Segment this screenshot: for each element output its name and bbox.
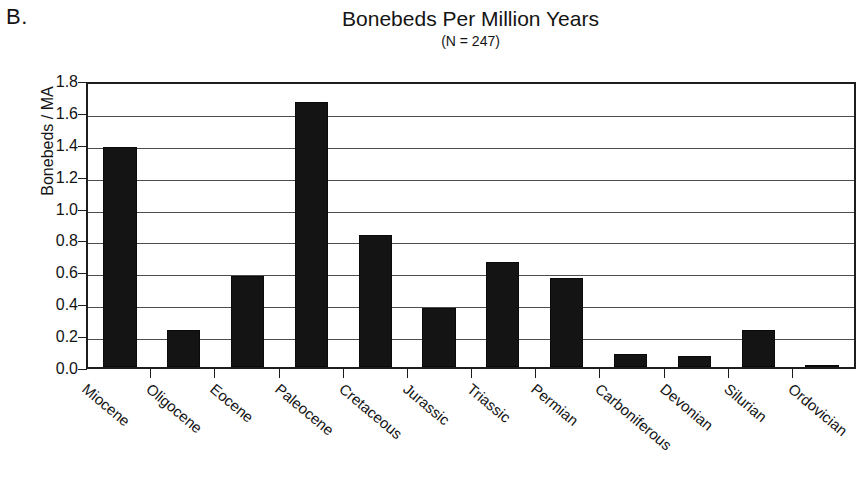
- x-axis-tick-label: Paleocene: [272, 380, 337, 439]
- bar-oligocene: [167, 330, 200, 367]
- bar-series: [88, 84, 854, 367]
- y-axis-tick-label: 0.0: [18, 360, 78, 378]
- y-axis-tick-label: 0.6: [18, 264, 78, 282]
- bar-cell: [216, 84, 280, 367]
- x-axis-tick-label: Devonian: [657, 380, 716, 434]
- bar-cell: [88, 84, 152, 367]
- bar-cell: [662, 84, 726, 367]
- bar-cell: [152, 84, 216, 367]
- x-axis-tick-mark: [728, 369, 729, 378]
- bar-eocene: [231, 276, 264, 367]
- y-axis-tick-label: 0.4: [18, 296, 78, 314]
- y-axis-tick-label: 1.0: [18, 201, 78, 219]
- x-axis-tick-mark: [407, 369, 408, 378]
- bar-cell: [471, 84, 535, 367]
- y-axis-tick-label: 1.6: [18, 105, 78, 123]
- x-axis-tick-mark: [792, 369, 793, 378]
- bar-cell: [343, 84, 407, 367]
- x-axis-tick-label: Miocene: [79, 380, 133, 429]
- bar-devonian: [678, 356, 711, 367]
- x-axis-tick-mark: [343, 369, 344, 378]
- x-axis-tick-label: Triassic: [464, 380, 514, 426]
- x-axis-tick-label: Ordovician: [785, 380, 851, 439]
- x-axis-tick-label: Cretaceous: [336, 380, 406, 442]
- x-axis-tick-mark: [214, 369, 215, 378]
- y-axis-tick-label: 1.8: [18, 73, 78, 91]
- y-axis-tick-mark: [78, 369, 87, 370]
- chart-subtitle: (N = 247): [90, 32, 851, 51]
- bar-triassic: [486, 262, 519, 367]
- x-axis-tick-label: Permian: [528, 380, 582, 429]
- bar-miocene: [103, 147, 136, 367]
- x-axis-tick-mark: [471, 369, 472, 378]
- y-axis-tick-label: 1.2: [18, 169, 78, 187]
- chart-title: Bonebeds Per Million Years: [90, 6, 851, 32]
- bar-jurassic: [422, 308, 455, 367]
- x-axis-tick-mark: [535, 369, 536, 378]
- bar-cretaceous: [359, 235, 392, 367]
- y-axis-tick-label: 0.2: [18, 328, 78, 346]
- y-axis-tick-label: 0.8: [18, 232, 78, 250]
- x-axis-tick-label: Oligocene: [143, 380, 206, 436]
- figure-panel-b: B. Bonebeds Per Million Years (N = 247) …: [0, 0, 861, 499]
- bar-carboniferous: [614, 354, 647, 367]
- bar-cell: [407, 84, 471, 367]
- bar-ordovician: [805, 365, 838, 367]
- x-axis-tick-mark: [599, 369, 600, 378]
- bar-silurian: [742, 330, 775, 367]
- x-axis-tick-mark: [279, 369, 280, 378]
- bar-cell: [599, 84, 663, 367]
- bar-cell: [726, 84, 790, 367]
- x-axis-tick-label: Jurassic: [400, 380, 453, 428]
- plot-area: [86, 82, 856, 369]
- bar-permian: [550, 278, 583, 367]
- x-axis-tick-label: Silurian: [721, 380, 770, 425]
- bar-cell: [279, 84, 343, 367]
- bar-cell: [790, 84, 854, 367]
- bar-paleocene: [295, 102, 328, 367]
- x-axis-tick-labels: MioceneOligoceneEocenePaleoceneCretaceou…: [86, 380, 856, 495]
- title-block: Bonebeds Per Million Years (N = 247): [90, 6, 851, 51]
- panel-letter: B.: [6, 4, 28, 30]
- x-axis-tick-label: Eocene: [207, 380, 257, 426]
- x-axis-tick-mark: [664, 369, 665, 378]
- y-axis-tick-label: 1.4: [18, 137, 78, 155]
- x-axis-tick-mark: [150, 369, 151, 378]
- bar-cell: [535, 84, 599, 367]
